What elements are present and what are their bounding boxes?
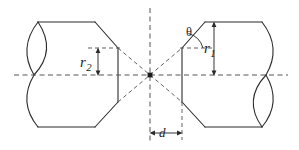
label-d: d [159,126,166,139]
centre-point-marker [148,73,153,78]
label-r1: r1 [204,41,216,59]
label-r2-subscript: 2 [86,61,91,73]
label-r2-symbol: r [80,54,86,70]
technical-diagram: r2 r1 θ d [0,0,299,150]
diagram-canvas [0,0,299,150]
label-theta: θ [186,26,192,39]
label-r1-subscript: 1 [210,47,215,59]
d-dimension [150,102,183,140]
label-r1-symbol: r [204,40,210,56]
label-r2: r2 [80,55,92,73]
